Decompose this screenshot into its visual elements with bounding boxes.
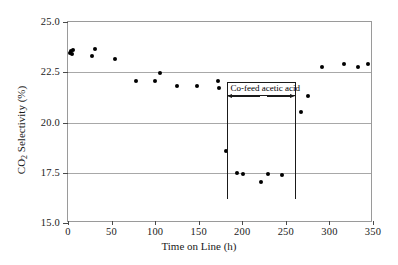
gridline xyxy=(68,123,371,124)
y-axis-title-prefix: CO xyxy=(15,158,27,173)
x-tick-label: 300 xyxy=(321,226,337,237)
y-tick-label: 20.0 xyxy=(41,116,60,127)
gridline xyxy=(68,173,371,174)
x-tick-mark xyxy=(112,221,113,225)
data-point xyxy=(70,52,74,56)
data-point xyxy=(90,54,94,58)
data-point xyxy=(158,71,162,75)
plot-area: 050100150200250300350 Co-feed acetic aci… xyxy=(67,21,372,222)
y-tick-mark xyxy=(63,22,68,23)
x-tick-label: 150 xyxy=(191,226,207,237)
y-axis-title-suffix: Selectivity (%) xyxy=(15,85,27,154)
data-point xyxy=(175,84,179,88)
cofeed-arrow-line-right xyxy=(267,96,291,97)
data-point xyxy=(153,79,157,83)
x-tick-label: 50 xyxy=(106,226,117,237)
y-tick-label: 15.0 xyxy=(41,217,60,228)
data-point xyxy=(195,84,199,88)
x-tick-mark xyxy=(242,221,243,225)
gridline xyxy=(68,72,371,73)
x-tick-label: 250 xyxy=(278,226,294,237)
x-tick-label: 200 xyxy=(234,226,250,237)
data-point xyxy=(356,65,360,69)
x-tick-mark xyxy=(373,221,374,225)
y-tick-label: 25.0 xyxy=(41,16,60,27)
data-point xyxy=(306,94,310,98)
data-point xyxy=(93,47,97,51)
data-point xyxy=(342,62,346,66)
cofeed-arrow-line-left xyxy=(232,96,259,97)
y-tick-mark xyxy=(63,173,68,174)
x-tick-label: 100 xyxy=(147,226,163,237)
data-point xyxy=(299,110,303,114)
data-point xyxy=(134,79,138,83)
x-axis-title: Time on Line (h) xyxy=(0,240,398,252)
cofeed-label: Co-feed acetic acid xyxy=(227,82,296,96)
x-tick-mark xyxy=(329,221,330,225)
data-point xyxy=(366,62,370,66)
data-point xyxy=(71,48,75,52)
x-tick-mark xyxy=(199,221,200,225)
x-tick-label: 0 xyxy=(65,226,70,237)
data-point xyxy=(320,65,324,69)
data-point xyxy=(216,79,220,83)
x-tick-mark xyxy=(286,221,287,225)
data-point xyxy=(217,86,221,90)
cofeed-arrow-head-left xyxy=(227,94,232,98)
x-tick-label: 350 xyxy=(365,226,381,237)
y-tick-label: 17.5 xyxy=(41,166,60,177)
data-point xyxy=(113,57,117,61)
data-point xyxy=(266,172,270,176)
y-tick-mark xyxy=(63,72,68,73)
data-point xyxy=(280,173,284,177)
cofeed-arrow-head-right xyxy=(290,94,295,98)
x-tick-mark xyxy=(155,221,156,225)
cofeed-end-line xyxy=(295,94,296,199)
y-tick-label: 22.5 xyxy=(41,66,60,77)
y-tick-mark xyxy=(63,123,68,124)
data-point xyxy=(241,172,245,176)
cofeed-start-line xyxy=(227,94,228,199)
chart-figure: 15.017.520.022.525.0 CO2 Selectivity (%)… xyxy=(0,0,398,265)
y-axis-title: CO2 Selectivity (%) xyxy=(15,30,29,230)
data-point xyxy=(235,171,239,175)
x-tick-mark xyxy=(68,221,69,225)
data-point xyxy=(259,180,263,184)
